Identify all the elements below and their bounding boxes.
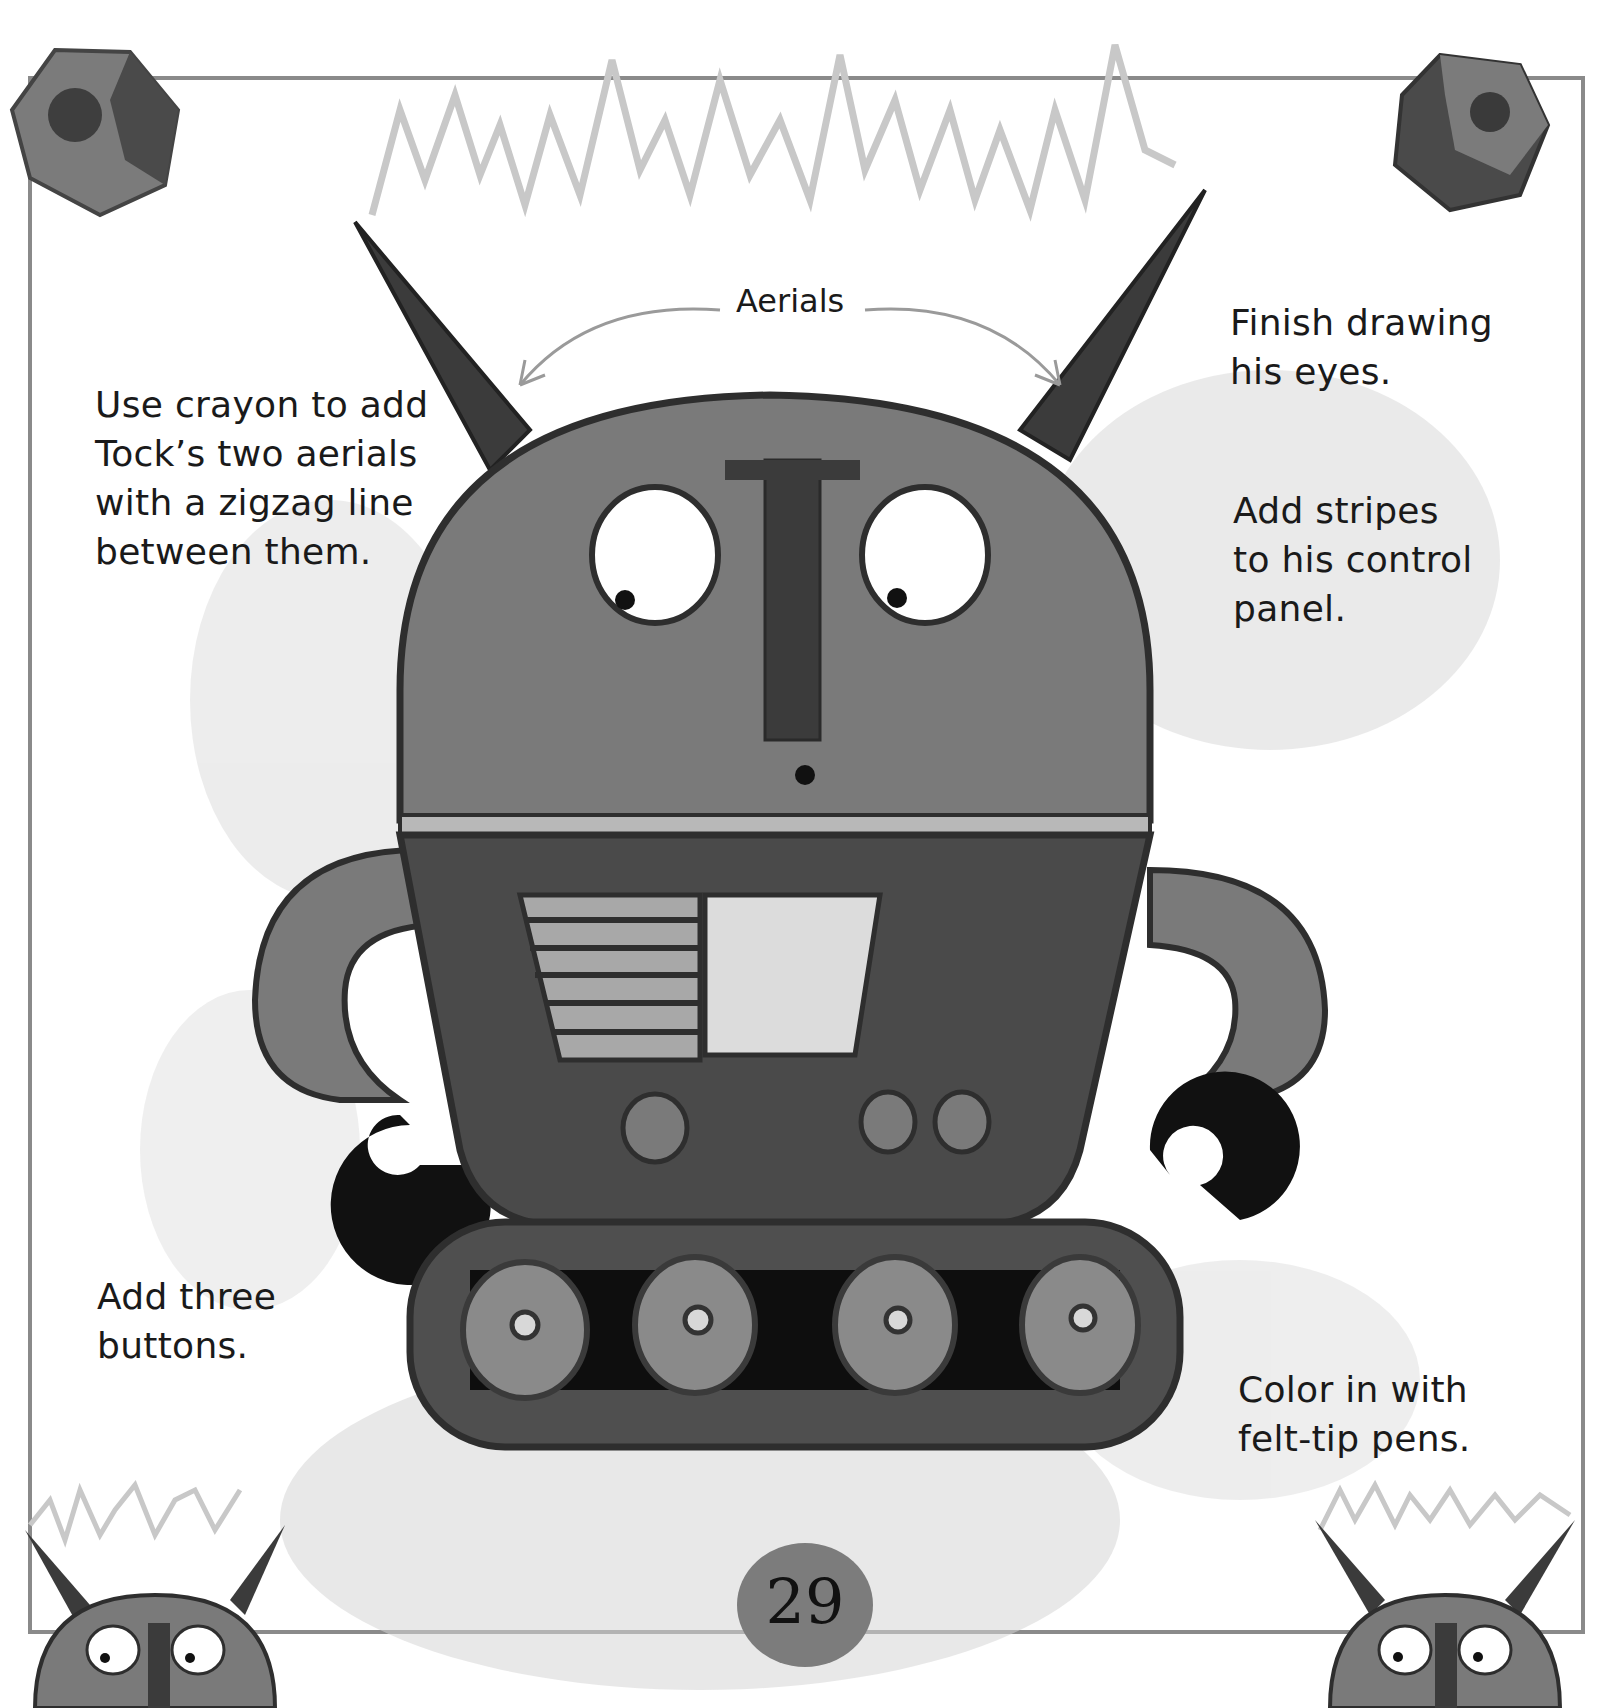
nose-bar (765, 460, 820, 740)
aerials-label: Aerials (736, 282, 844, 320)
instruction-color: Color in with felt-tip pens. (1238, 1365, 1471, 1463)
mouth (795, 765, 815, 785)
instruction-stripes: Add stripes to his control panel. (1233, 486, 1473, 633)
hand-right (1150, 1072, 1300, 1220)
instruction-aerials: Use crayon to add Tock’s two aerials wit… (95, 380, 428, 576)
mini-robot-bottom-left (25, 1485, 285, 1708)
tank-tread (410, 1222, 1180, 1447)
nut-icon-top-left (12, 50, 178, 215)
instruction-buttons: Add three buttons. (97, 1272, 276, 1370)
instruction-eyes: Finish drawing his eyes. (1230, 298, 1493, 396)
screen (705, 895, 880, 1055)
arm-right (1150, 870, 1325, 1100)
aerials-arrows (520, 309, 1060, 385)
book-page: Aerials Use crayon to add Tock’s two aer… (0, 0, 1616, 1708)
eye-left (592, 487, 718, 623)
mini-robot-bottom-right (1315, 1485, 1575, 1708)
zigzag-line-top (372, 45, 1175, 215)
page-number: 29 (740, 1565, 870, 1638)
nut-icon-top-right (1395, 55, 1548, 210)
arm-left (255, 850, 430, 1100)
eye-right (862, 487, 988, 623)
